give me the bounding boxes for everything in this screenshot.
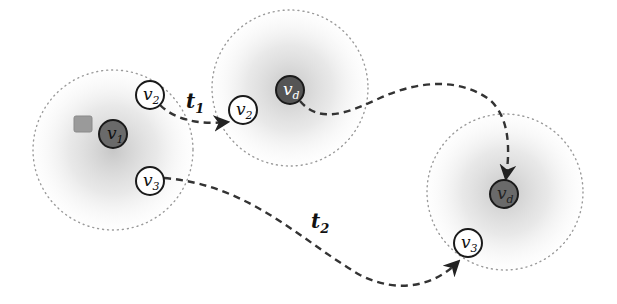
node-v2-destination: v2 [229, 96, 257, 124]
trajectory-diagram: v1 v2 v3 v2 vd vd v3 t1 t2 [0, 0, 617, 304]
label-t1: t1 [186, 89, 204, 116]
region-1 [33, 70, 193, 230]
node-v1: v1 [99, 120, 127, 148]
node-v3-destination: v3 [454, 229, 482, 257]
node-v2-origin: v2 [136, 81, 164, 109]
node-v3-origin: v3 [136, 167, 164, 195]
label-t2: t2 [311, 209, 329, 236]
node-vd-destination: vd [490, 180, 518, 208]
node-vd-origin: vd [276, 76, 304, 104]
obstacle-square [74, 116, 92, 132]
